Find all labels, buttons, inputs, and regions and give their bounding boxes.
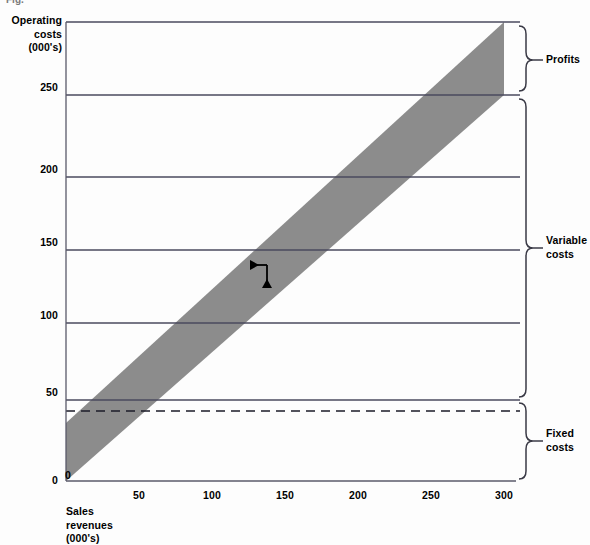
category-brackets — [519, 26, 543, 479]
y-tick-label-200: 200 — [18, 163, 58, 175]
x-tick-label-300: 300 — [484, 489, 524, 501]
y-tick-label-100: 100 — [18, 309, 58, 321]
x-axis-title: Sales revenues (000's) — [66, 505, 186, 545]
profits-bracket — [519, 26, 533, 91]
y-axis-title: Operating costs (000's) — [2, 14, 62, 55]
fixed-costs-bracket — [519, 403, 533, 479]
shaded-wedge-region — [66, 22, 504, 481]
x-tick-label-100: 100 — [192, 489, 232, 501]
bracket-label-profits: Profits — [546, 53, 580, 67]
x-tick-label-200: 200 — [338, 489, 378, 501]
x-tick-label-150: 150 — [265, 489, 305, 501]
y-tick-label-50: 50 — [18, 386, 58, 398]
bracket-label-variable-costs: Variable costs — [546, 234, 587, 261]
x-tick-label-50: 50 — [119, 489, 159, 501]
x-tick-label-0: 0 — [48, 469, 88, 481]
y-tick-label-250: 250 — [18, 81, 58, 93]
chart-canvas — [0, 0, 590, 545]
y-tick-label-150: 150 — [18, 236, 58, 248]
break-even-chart-figure: Fig. — [0, 0, 590, 545]
variable-costs-bracket — [519, 99, 533, 397]
bracket-label-fixed-costs: Fixed costs — [546, 427, 574, 454]
x-tick-label-250: 250 — [411, 489, 451, 501]
